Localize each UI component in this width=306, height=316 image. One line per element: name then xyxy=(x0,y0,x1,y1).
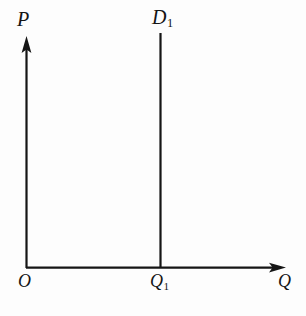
demand-curve-label-base: D xyxy=(152,6,166,28)
origin-label: O xyxy=(18,272,31,290)
quantity-point-label-subscript: 1 xyxy=(164,280,170,292)
quantity-point-label-base: Q xyxy=(150,271,163,291)
price-axis-label: P xyxy=(17,9,29,29)
demand-curve-label: D1 xyxy=(152,7,173,27)
demand-curve-label-subscript: 1 xyxy=(167,16,173,30)
diagram-canvas xyxy=(0,0,306,316)
quantity-point-label: Q1 xyxy=(150,272,169,290)
economics-diagram-figure: P D1 O Q1 Q xyxy=(0,0,306,316)
quantity-axis-label: Q xyxy=(278,272,291,290)
